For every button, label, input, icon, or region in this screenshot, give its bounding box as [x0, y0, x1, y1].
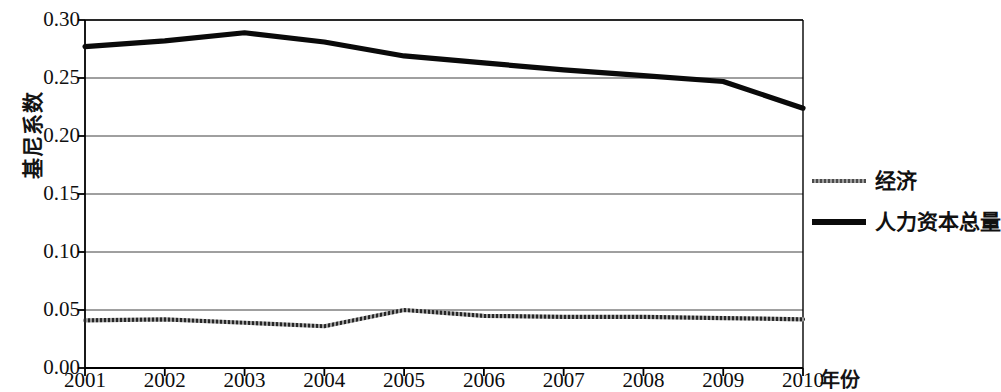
legend-label-economy: 经济 [875, 170, 917, 192]
legend-item-economy: 经济 [812, 160, 1000, 201]
x-axis-title: 年份 [820, 368, 860, 392]
legend-label-human-capital: 人力资本总量 [875, 211, 1001, 233]
legend: 经济 人力资本总量 [812, 160, 1000, 242]
x-tick-label: 2006 [439, 368, 529, 392]
legend-item-human-capital: 人力资本总量 [812, 201, 1000, 242]
x-tick-label: 2003 [200, 368, 290, 392]
x-tick-label: 2004 [279, 368, 369, 392]
x-tick-label: 2002 [120, 368, 210, 392]
x-tick-label: 2005 [359, 368, 449, 392]
legend-line-swatch-economy-icon [812, 174, 866, 188]
x-tick-label: 2001 [40, 368, 130, 392]
x-tick-label: 2007 [519, 368, 609, 392]
x-tick-label: 2008 [598, 368, 688, 392]
legend-line-swatch-human-capital-icon [812, 215, 866, 229]
x-tick-label: 2009 [678, 368, 768, 392]
